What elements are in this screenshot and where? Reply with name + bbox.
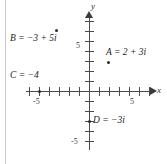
x-axis-tick [99,87,100,96]
x-axis-tick [149,87,150,96]
x-axis-tick [49,87,50,96]
y-axis-tick [85,51,94,52]
x-axis-tick [59,87,60,96]
x-axis-tick [129,87,130,96]
x-axis-tick [109,87,110,96]
x-axis-tick [69,87,70,96]
page-edge-rule [5,0,6,164]
y-axis-tick [85,41,94,42]
y-axis-arrow-icon [85,11,93,18]
point-marker-d [88,120,91,123]
y-axis-label: y [91,2,95,11]
x-axis-arrow-icon [150,87,157,95]
y-axis-tick [85,111,94,112]
y-axis-tick [85,31,94,32]
point-label-a: A = 2 + 3i [106,48,146,58]
x-axis-tick [29,87,30,96]
complex-plane-figure: x y -5 5 5 -5 A = 2 + 3i B = −3 + 5i C =… [0,0,167,164]
y-tick-label-negative-five: -5 [71,138,78,146]
y-axis-tick [85,131,94,132]
y-axis-tick [85,71,94,72]
x-axis-tick [79,87,80,96]
x-axis-tick [139,87,140,96]
point-marker-b [55,29,58,32]
y-axis-tick [85,101,94,102]
y-tick-label-positive-five: 5 [76,42,80,50]
point-marker-a [107,61,110,64]
x-axis-tick [119,87,120,96]
y-axis-tick [85,21,94,22]
y-axis-tick [85,81,94,82]
point-marker-c [38,90,41,93]
y-axis-tick [85,61,94,62]
point-label-d: D = −3i [93,116,125,126]
point-label-b: B = −3 + 5i [10,34,57,44]
x-axis-label: x [157,86,161,95]
point-label-c: C = −4 [10,71,39,81]
y-axis-line [89,16,90,150]
y-axis-tick [85,141,94,142]
x-tick-label-negative-five: -5 [33,98,40,106]
x-tick-label-positive-five: 5 [130,98,134,106]
